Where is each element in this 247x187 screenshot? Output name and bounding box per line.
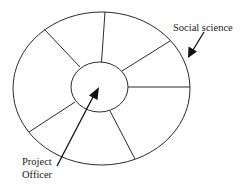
spoke-upper-left <box>44 29 80 67</box>
label-project: Project <box>22 156 52 167</box>
social-science-arrow-icon <box>188 32 204 58</box>
spoke-lower-right <box>110 111 135 159</box>
wheel-diagram: Social science Project Officer <box>0 0 247 187</box>
spoke-upper-right <box>122 41 170 71</box>
label-social-science: Social science <box>173 22 233 33</box>
spoke-lower-left <box>29 102 75 132</box>
spoke-top <box>102 12 106 62</box>
label-officer: Officer <box>22 169 53 180</box>
inner-circle-project-officer <box>71 62 128 112</box>
